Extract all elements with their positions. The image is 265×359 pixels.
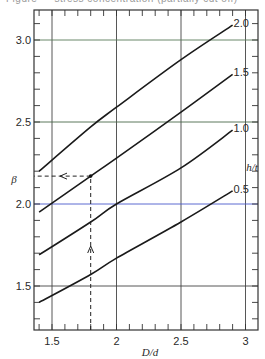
x-tick-label: 3 — [242, 335, 248, 347]
y-tick-label: 2.0 — [16, 198, 31, 210]
intersection-point — [89, 174, 93, 178]
curve-label: 2.0 — [234, 17, 249, 29]
axis-labels: 1.52.02.53.01.522.532.01.51.00.5βD/dh/t — [10, 17, 258, 358]
axis-ticks — [34, 10, 258, 330]
legend-title-h-t: h/t — [246, 161, 259, 173]
curves — [39, 25, 233, 302]
y-tick-label: 3.0 — [16, 34, 31, 46]
x-tick-label: 2.5 — [173, 335, 188, 347]
x-axis-title: D/d — [141, 346, 159, 358]
y-tick-label: 2.5 — [16, 116, 31, 128]
chart: 1.52.02.53.01.522.532.01.51.00.5βD/dh/t — [0, 0, 265, 359]
x-tick-label: 1.5 — [44, 335, 59, 347]
grid-lines — [34, 10, 258, 330]
curve-label: 0.5 — [234, 183, 249, 195]
curve-label: 1.0 — [234, 122, 249, 134]
curve-h-t-2-0 — [39, 25, 233, 171]
curve-h-t-1-5 — [39, 74, 233, 212]
plot-border — [34, 10, 258, 330]
y-axis-title: β — [10, 173, 17, 185]
plot-frame — [34, 10, 258, 330]
curve-label: 1.5 — [234, 66, 249, 78]
y-tick-label: 1.5 — [16, 280, 31, 292]
x-tick-label: 2 — [113, 335, 119, 347]
